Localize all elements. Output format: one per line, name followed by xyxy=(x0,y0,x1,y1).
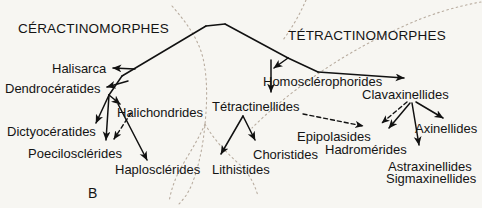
taxon-dictyoceratides: Dictyocératides xyxy=(7,125,96,138)
taxon-poecilosclerides: Poecilosclérides xyxy=(28,147,122,160)
arrow-to-homosclerophorides xyxy=(274,58,288,68)
arrow-to-halisarca xyxy=(113,68,135,69)
arrow-to-choristides xyxy=(243,116,255,140)
taxon-lithistides: Lithistides xyxy=(212,163,270,176)
arrow-clavaxinellides-to-epipolasides xyxy=(382,102,407,123)
taxon-haplosclerides: Haplosclérides xyxy=(115,163,200,176)
taxon-hadromerides: Hadromérides xyxy=(325,143,407,156)
right-clade-dashed-arrows xyxy=(303,102,407,126)
arrow-to-axinellides xyxy=(416,102,443,118)
taxon-axinellides: Axinellides xyxy=(415,122,477,135)
arrow-tetractinellides-to-epipolasides xyxy=(303,114,363,126)
clade-title-ceractinomorphes: CÉRACTINOMORPHES xyxy=(18,22,169,36)
taxon-halichondrides: Halichondrides xyxy=(117,106,203,119)
taxon-tetractinellides: Tétractinellides xyxy=(212,100,299,113)
arrow-to-halichondrides xyxy=(109,95,120,104)
panel-letter: B xyxy=(88,186,97,200)
taxon-halisarca: Halisarca xyxy=(52,62,106,75)
taxon-choristides: Choristides xyxy=(253,148,318,161)
clade-title-tetractinomorphes: TÉTRACTINOMORPHES xyxy=(288,29,446,43)
taxon-dendroceratides: Dendrocératides xyxy=(5,82,100,95)
arrow-to-lithistides xyxy=(221,116,243,154)
taxon-clavaxinellides: Clavaxinellides xyxy=(362,88,449,101)
taxon-sigmaxinellides: Sigmaxinellides xyxy=(386,172,476,185)
arrow-to-hadromerides xyxy=(389,103,410,128)
figure-panel: CÉRACTINOMORPHES TÉTRACTINOMORPHES Halis… xyxy=(0,0,482,208)
